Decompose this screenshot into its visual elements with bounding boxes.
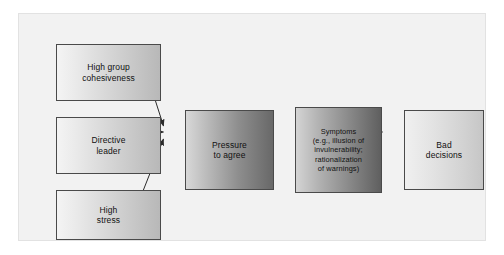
node-label: Pressure to agree [186,140,273,160]
node-pressure-to-agree: Pressure to agree [185,110,274,190]
node-directive-leader: Directive leader [56,117,161,174]
node-label: Symptoms (e.g., illusion of invulnerabil… [296,127,381,173]
node-symptoms: Symptoms (e.g., illusion of invulnerabil… [295,107,382,193]
node-high-stress: High stress [56,190,161,240]
node-label: Directive leader [57,135,160,155]
node-bad-decisions: Bad decisions [404,110,484,190]
node-label: Bad decisions [405,140,483,160]
diagram-frame: High group cohesiveness Directive leader… [18,13,486,241]
node-label: High group cohesiveness [57,62,160,82]
node-high-group-cohesiveness: High group cohesiveness [56,44,161,101]
node-label: High stress [57,205,160,225]
figure-root: High group cohesiveness Directive leader… [0,0,504,255]
